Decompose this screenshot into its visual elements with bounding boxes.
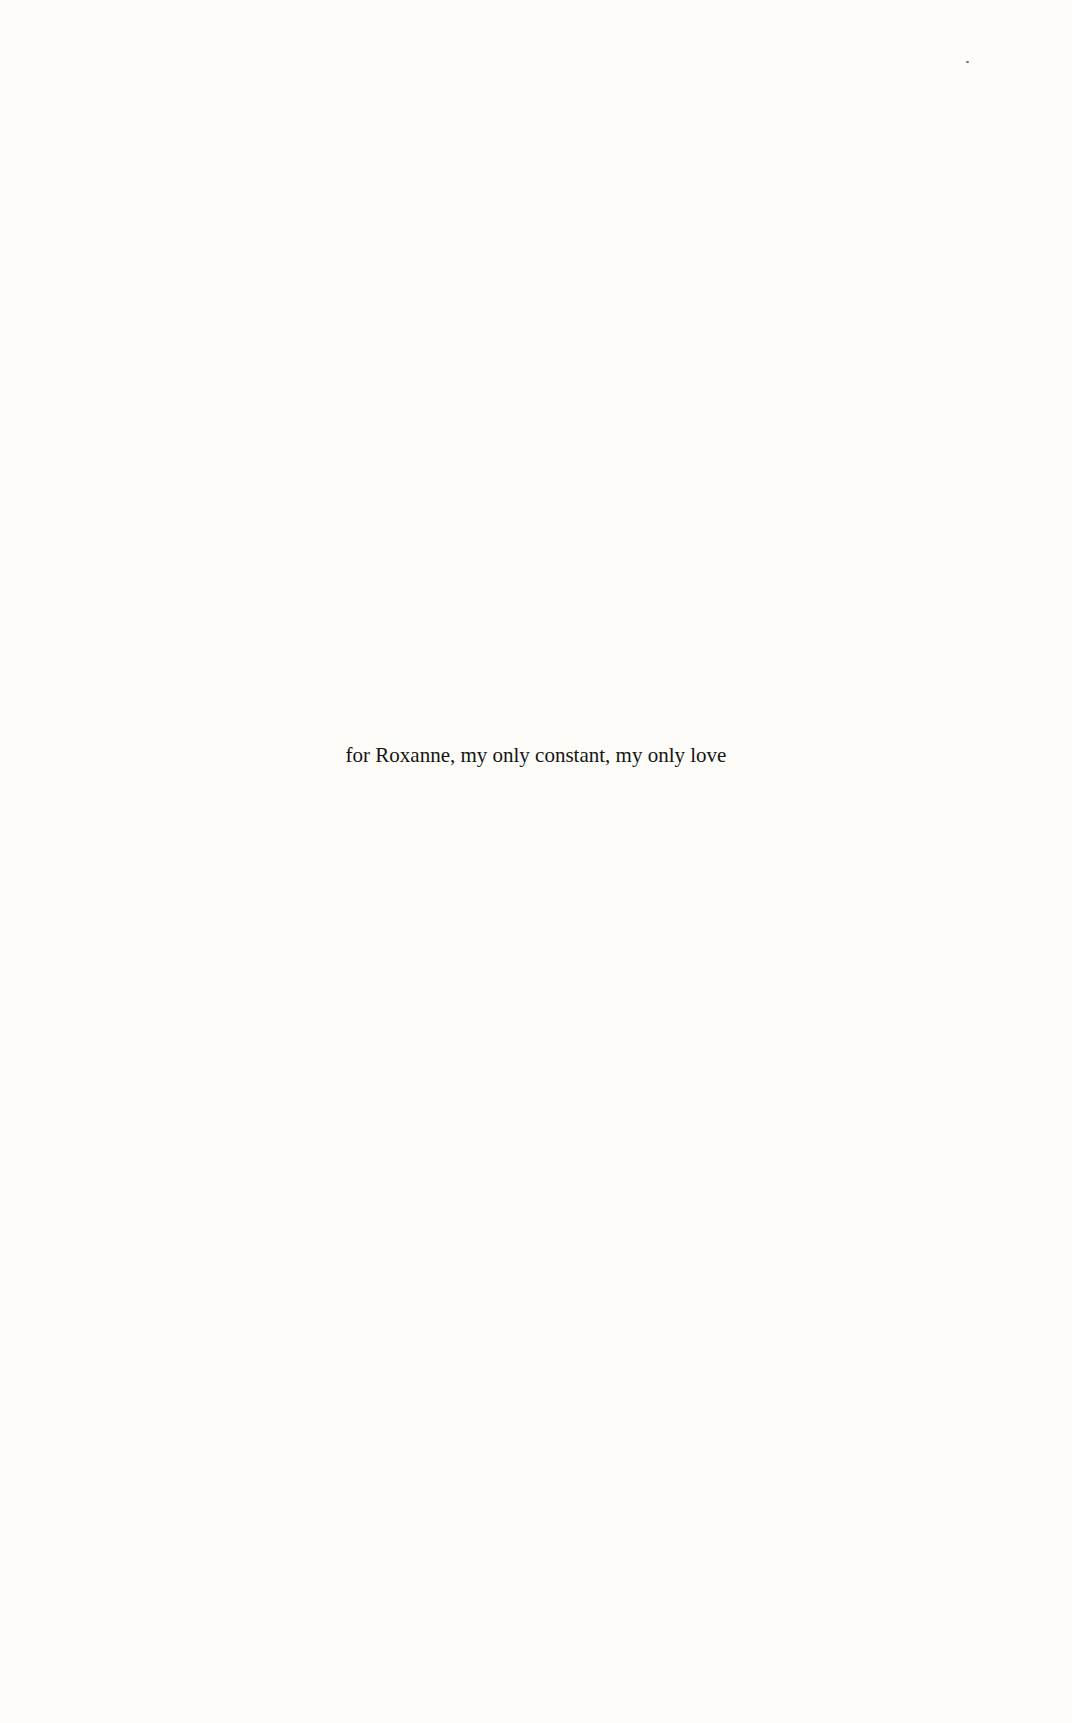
dedication-text: for Roxanne, my only constant, my only l… [0,740,1072,770]
book-page: for Roxanne, my only constant, my only l… [0,0,1072,1723]
scan-speck [966,61,969,63]
